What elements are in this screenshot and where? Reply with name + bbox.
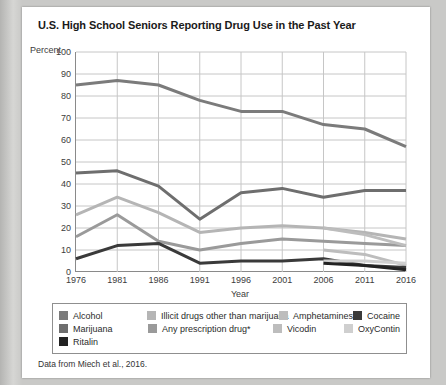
y-axis-tick: 70 (61, 113, 71, 123)
x-axis-tick: 1981 (107, 275, 127, 285)
x-axis-tick: 1976 (66, 275, 86, 285)
x-axis-tick: 1986 (148, 275, 168, 285)
figure-card: U.S. High School Seniors Reporting Drug … (22, 7, 430, 378)
legend-swatch-icon (59, 337, 68, 346)
page-edge-shadow (0, 0, 22, 385)
legend-label: Vicodin (287, 324, 316, 334)
legend-item-ritalin[interactable]: Ritalin (59, 337, 153, 347)
legend-swatch-icon (59, 324, 68, 333)
y-axis-tick: 40 (61, 179, 71, 189)
legend-swatch-icon (147, 311, 156, 320)
chart-canvas (76, 52, 406, 272)
legend-item-any-prescription-drug[interactable]: Any prescription drug* (148, 324, 273, 334)
x-axis-label: Year (75, 289, 405, 299)
chart-legend: AlcoholIllicit drugs other than marijuan… (52, 303, 407, 354)
x-axis-tick: 2001 (272, 275, 292, 285)
legend-label: Marijuana (73, 324, 113, 334)
legend-item-amphetamines[interactable]: Amphetamines (279, 311, 353, 321)
x-axis-tick: 2016 (396, 275, 416, 285)
legend-item-vicodin[interactable]: Vicodin (273, 324, 344, 334)
x-axis-tick: 1991 (190, 275, 210, 285)
y-axis-tick: 60 (61, 135, 71, 145)
legend-label: Illicit drugs other than marijuana (161, 311, 289, 321)
legend-row: AlcoholIllicit drugs other than marijuan… (59, 309, 400, 322)
legend-label: OxyContin (358, 324, 400, 334)
legend-item-alcohol[interactable]: Alcohol (59, 311, 147, 321)
chart-title: U.S. High School Seniors Reporting Drug … (38, 19, 356, 31)
legend-swatch-icon (148, 324, 157, 333)
legend-row: MarijuanaAny prescription drug*VicodinOx… (59, 322, 400, 335)
legend-item-oxycontin[interactable]: OxyContin (344, 324, 400, 334)
legend-label: Cocaine (367, 311, 400, 321)
legend-swatch-icon (59, 311, 68, 320)
legend-item-illicit-drugs-other-than-marijuana[interactable]: Illicit drugs other than marijuana (147, 311, 279, 321)
legend-label: Amphetamines (293, 311, 353, 321)
legend-item-cocaine[interactable]: Cocaine (353, 311, 400, 321)
legend-label: Any prescription drug* (162, 324, 251, 334)
legend-swatch-icon (273, 324, 282, 333)
figure-caption: Data from Miech et al., 2016. (38, 359, 147, 369)
y-axis-tick: 20 (61, 223, 71, 233)
plot-area: 0102030405060708090100197619811986199119… (75, 52, 405, 272)
x-axis-tick: 1996 (231, 275, 251, 285)
y-axis-tick: 90 (61, 69, 71, 79)
legend-swatch-icon (279, 311, 288, 320)
legend-swatch-icon (353, 311, 362, 320)
x-axis-tick: 2006 (313, 275, 333, 285)
legend-item-marijuana[interactable]: Marijuana (59, 324, 148, 334)
legend-row: Ritalin (59, 335, 400, 348)
y-axis-tick: 30 (61, 201, 71, 211)
plot-area-wrapper: Percent 01020304050607080901001976198119… (22, 37, 430, 287)
y-axis-tick: 80 (61, 91, 71, 101)
legend-label: Ritalin (73, 337, 98, 347)
x-axis-tick: 2011 (355, 275, 374, 285)
y-axis-tick: 10 (61, 245, 71, 255)
legend-label: Alcohol (73, 311, 103, 321)
legend-swatch-icon (344, 324, 353, 333)
y-axis-tick: 50 (61, 157, 71, 167)
y-axis-tick: 100 (56, 47, 71, 57)
